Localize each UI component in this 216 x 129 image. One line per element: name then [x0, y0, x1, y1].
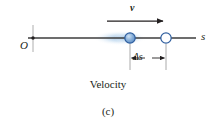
- figure-caption: Velocity: [0, 79, 216, 90]
- delta-s-label: Δs: [133, 52, 143, 62]
- panel-label: (c): [0, 106, 216, 117]
- particle-final: [161, 33, 171, 43]
- origin-label: O: [20, 40, 28, 51]
- origin-dot: [31, 36, 34, 39]
- particle-initial: [125, 33, 135, 43]
- velocity-vector-label: v: [130, 3, 134, 13]
- velocity-figure: O s v Δs Velocity (c): [0, 0, 216, 129]
- s-axis-label: s: [201, 31, 205, 42]
